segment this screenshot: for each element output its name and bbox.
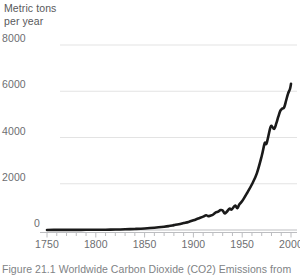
y-axis-tick-label: 6000 [2, 78, 40, 90]
gridlines [60, 45, 297, 230]
x-axis-tick-label: 1800 [76, 238, 116, 250]
figure-caption: Figure 21.1 Worldwide Carbon Dioxide (CO… [2, 263, 300, 275]
x-axis-tick-label: 1750 [27, 238, 67, 250]
y-axis-tick-label: 8000 [2, 32, 40, 44]
y-axis-tick-label: 0 [0, 217, 40, 229]
x-axis-tick-label: 1950 [222, 238, 262, 250]
data-line-series-0 [47, 84, 291, 230]
plot-area [0, 0, 300, 258]
x-axis-tick-label: 1900 [173, 238, 213, 250]
x-axis-tick-label: 2000 [271, 238, 300, 250]
chart-svg [0, 0, 300, 258]
figure-co2-emissions: Metric tons per year 02000400060008000 1… [0, 0, 300, 275]
x-axis-ticks [40, 233, 297, 238]
y-axis-tick-label: 4000 [2, 125, 40, 137]
x-axis-tick-label: 1850 [125, 238, 165, 250]
y-axis-tick-label: 2000 [2, 171, 40, 183]
